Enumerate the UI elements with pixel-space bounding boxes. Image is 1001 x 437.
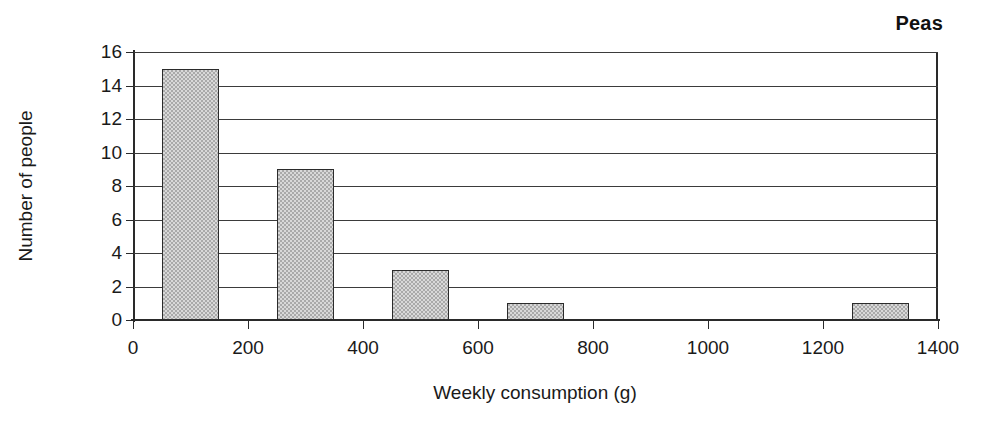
plot-area: 0246810121416 0200400600800100012001400 bbox=[133, 52, 938, 320]
y-tick-label-8: 8 bbox=[111, 175, 122, 197]
gridline-y-12 bbox=[133, 119, 938, 120]
x-tick-1400 bbox=[938, 320, 939, 329]
y-tick-label-14: 14 bbox=[101, 75, 122, 97]
x-tick-label-1200: 1200 bbox=[802, 337, 844, 359]
x-axis-title: Weekly consumption (g) bbox=[433, 382, 636, 404]
gridline-y-6 bbox=[133, 220, 938, 221]
gridline-y-14 bbox=[133, 86, 938, 87]
bar-450-550 bbox=[392, 270, 450, 320]
y-tick-label-4: 4 bbox=[111, 242, 122, 264]
y-tick-label-6: 6 bbox=[111, 209, 122, 231]
y-tick-label-0: 0 bbox=[111, 309, 122, 331]
x-tick-1000 bbox=[708, 320, 709, 329]
x-tick-label-0: 0 bbox=[128, 337, 139, 359]
chart-title: Peas bbox=[895, 12, 943, 35]
x-tick-label-800: 800 bbox=[577, 337, 609, 359]
x-tick-label-1000: 1000 bbox=[687, 337, 729, 359]
y-tick-14 bbox=[126, 86, 134, 87]
x-tick-label-1400: 1400 bbox=[917, 337, 959, 359]
bar-1250-1350 bbox=[852, 303, 910, 320]
y-tick-6 bbox=[126, 220, 134, 221]
gridline-y-4 bbox=[133, 253, 938, 254]
x-tick-label-200: 200 bbox=[232, 337, 264, 359]
bar-650-750 bbox=[507, 303, 565, 320]
x-tick-800 bbox=[593, 320, 594, 329]
x-tick-1200 bbox=[823, 320, 824, 329]
y-tick-4 bbox=[126, 253, 134, 254]
x-tick-0 bbox=[133, 320, 134, 329]
gridline-y-10 bbox=[133, 153, 938, 154]
y-tick-label-16: 16 bbox=[101, 41, 122, 63]
y-axis-title: Number of people bbox=[15, 110, 37, 261]
bar-250-350 bbox=[277, 169, 335, 320]
y-tick-label-12: 12 bbox=[101, 108, 122, 130]
x-tick-400 bbox=[363, 320, 364, 329]
x-tick-label-600: 600 bbox=[462, 337, 494, 359]
y-tick-10 bbox=[126, 153, 134, 154]
x-tick-600 bbox=[478, 320, 479, 329]
x-tick-200 bbox=[248, 320, 249, 329]
y-tick-16 bbox=[126, 52, 134, 53]
gridline-y-2 bbox=[133, 287, 938, 288]
bar-50-150 bbox=[162, 69, 220, 320]
y-tick-12 bbox=[126, 119, 134, 120]
y-tick-8 bbox=[126, 186, 134, 187]
gridline-y-16 bbox=[133, 52, 938, 53]
y-tick-label-10: 10 bbox=[101, 142, 122, 164]
chart-figure: Peas Number of people Weekly consumption… bbox=[0, 0, 1001, 437]
x-tick-label-400: 400 bbox=[347, 337, 379, 359]
y-tick-2 bbox=[126, 287, 134, 288]
y-tick-label-2: 2 bbox=[111, 276, 122, 298]
gridline-y-8 bbox=[133, 186, 938, 187]
